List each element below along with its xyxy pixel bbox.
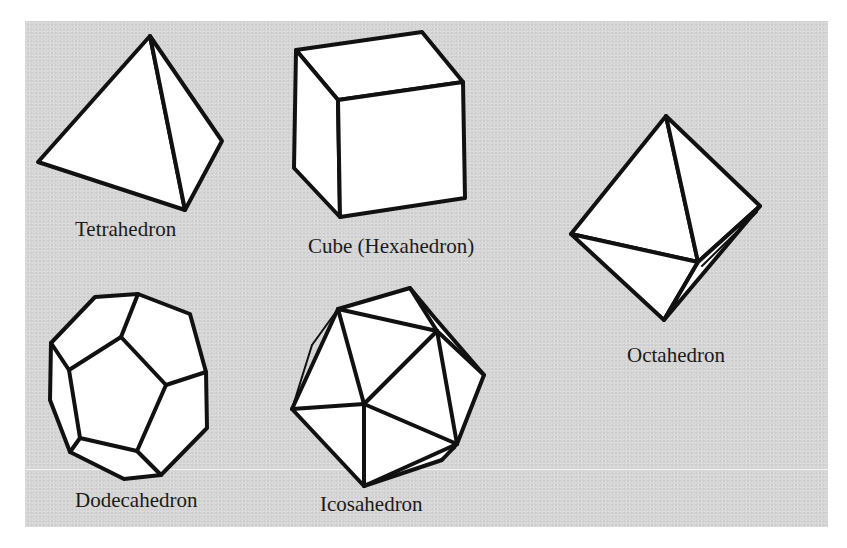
tetrahedron-shape [38,36,222,210]
tetrahedron-label: Tetrahedron [75,219,176,240]
dodecahedron-shape [50,294,207,479]
octahedron-label: Octahedron [627,345,725,366]
icosahedron-shape [292,288,484,486]
octahedron-shape [571,116,760,320]
dodecahedron-label: Dodecahedron [75,490,197,511]
cube-shape [294,32,465,217]
icosahedron-label: Icosahedron [320,494,423,515]
cube-label: Cube (Hexahedron) [308,236,474,257]
polyhedra-illustration [0,0,847,548]
